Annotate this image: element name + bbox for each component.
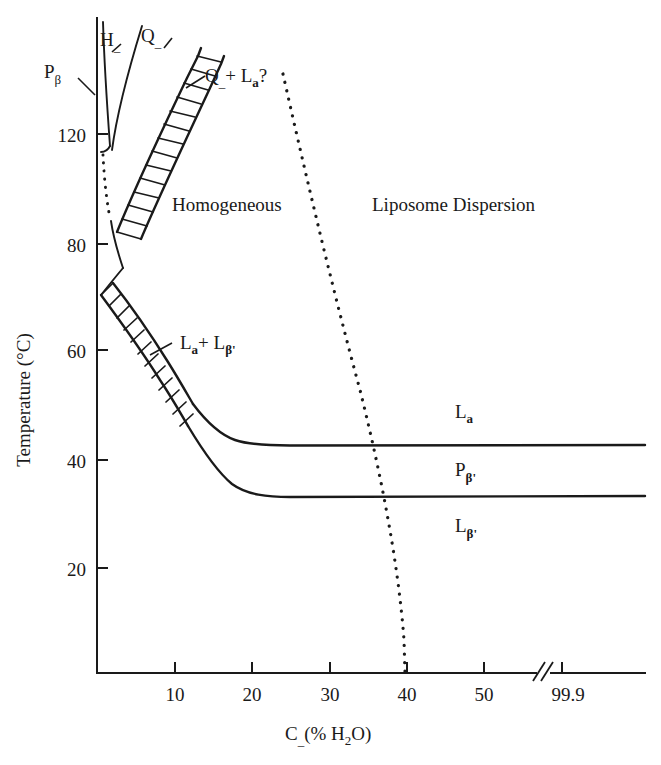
label-p-beta-base: P <box>44 61 55 82</box>
pbeta-lbeta-transition-curve <box>188 426 645 497</box>
y-tick-label-40: 40 <box>67 451 86 472</box>
label-q-phase-base: Q <box>141 25 155 46</box>
label-q-phase: Q_ <box>141 25 162 50</box>
axis-break-icon <box>533 662 553 681</box>
label-p-beta: Pβ <box>44 61 62 87</box>
la-band-lower-edge <box>101 295 188 426</box>
label-p-beta-prime-sub: β' <box>466 470 476 485</box>
label-h-phase-base: H <box>100 29 114 50</box>
label-homogeneous: Homogeneous <box>172 194 282 215</box>
p-beta-wedge-foot <box>101 146 110 152</box>
label-p-beta-sub: β <box>55 72 62 87</box>
phase-diagram-svg: 120 80 60 40 20 10 20 30 40 50 99.9 C_(%… <box>0 0 661 765</box>
label-h-phase-sub: _ <box>113 39 121 54</box>
label-l-alpha-base: L <box>455 401 467 422</box>
label-p-beta-prime-base: P <box>455 459 466 480</box>
label-la-plus-lbeta-la: L <box>180 332 192 353</box>
la-plus-lbeta-leader-line <box>150 343 172 355</box>
y-axis-title-main: Temperature ( <box>13 360 35 467</box>
label-q-plus-la-question: ? <box>259 65 267 86</box>
p-beta-leader-line <box>78 78 95 95</box>
phase-diagram-figure: 120 80 60 40 20 10 20 30 40 50 99.9 C_(%… <box>0 0 661 765</box>
label-l-alpha-sub: a <box>467 411 474 426</box>
label-l-beta-prime: Lβ' <box>455 515 477 541</box>
axis-descending-curve <box>111 221 123 268</box>
y-tick-labels: 120 80 60 40 20 <box>58 125 87 580</box>
label-l-beta-prime-sub: β' <box>467 526 477 541</box>
x-tick-label-50: 50 <box>475 684 494 705</box>
y-axis-ticks <box>97 134 108 568</box>
x-axis-title-close: O) <box>351 723 371 745</box>
y-tick-label-60: 60 <box>67 341 86 362</box>
label-q-plus-la: Q_+ La? <box>205 65 267 90</box>
y-tick-label-20: 20 <box>67 559 86 580</box>
lower-axis-dotted-segment <box>103 155 110 218</box>
label-la-plus-lbeta-lb-sub: β' <box>225 342 235 357</box>
label-q-plus-la-q: Q <box>205 65 219 86</box>
y-axis-title-degree: ° <box>13 352 34 360</box>
label-l-beta-prime-base: L <box>455 515 467 536</box>
y-tick-label-80: 80 <box>67 235 86 256</box>
x-axis-title-rest: (% H <box>304 723 345 745</box>
x-tick-labels: 10 20 30 40 50 99.9 <box>166 684 585 705</box>
label-la-plus-lbeta: La+ Lβ' <box>180 332 236 357</box>
x-axis-title: C_(% H2O) <box>285 723 371 748</box>
label-liposome-dispersion: Liposome Dispersion <box>372 194 536 215</box>
x-tick-label-30: 30 <box>321 684 340 705</box>
label-l-alpha: La <box>455 401 474 426</box>
svg-text:Temperature (°C): Temperature (°C) <box>13 333 35 466</box>
x-tick-label-40: 40 <box>398 684 417 705</box>
y-tick-label-120: 120 <box>58 125 87 146</box>
y-axis-title-unit: C) <box>13 333 35 352</box>
x-tick-label-20: 20 <box>243 684 262 705</box>
q-band-bottom-rung <box>117 232 141 239</box>
la-plus-lbeta-hatched-band <box>101 283 193 426</box>
label-p-beta-prime: Pβ' <box>455 459 476 485</box>
label-h-phase: H_ <box>100 29 121 54</box>
label-q-phase-sub: _ <box>154 35 162 50</box>
x-tick-label-99-9: 99.9 <box>551 684 584 705</box>
svg-text:C_(% H2O): C_(% H2O) <box>285 723 371 748</box>
liposome-dispersion-boundary <box>283 74 405 673</box>
y-axis-title: Temperature (°C) <box>13 333 35 466</box>
la-pbeta-transition-curve <box>193 404 645 446</box>
label-q-plus-la-plus: + L <box>225 65 252 86</box>
x-tick-label-10: 10 <box>166 684 185 705</box>
x-axis-ticks <box>175 662 562 673</box>
q-phase-leader-line <box>164 38 172 48</box>
x-axis-title-main: C <box>285 723 298 744</box>
label-la-plus-lbeta-plus: + L <box>198 332 225 353</box>
la-band-hatch-lines <box>109 294 193 426</box>
